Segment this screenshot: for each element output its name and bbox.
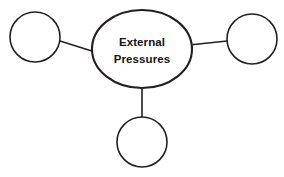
connector-left bbox=[60, 41, 95, 52]
connector-right bbox=[189, 41, 227, 45]
external-pressures-label-line1: External bbox=[119, 36, 165, 48]
satellite-bottom[interactable] bbox=[117, 117, 167, 167]
satellite-right[interactable] bbox=[227, 14, 277, 64]
diagram-canvas: External Pressures bbox=[0, 0, 284, 177]
satellite-left[interactable] bbox=[10, 12, 60, 62]
external-pressures-label-line2: Pressures bbox=[114, 53, 171, 65]
hub-and-spoke-diagram: External Pressures bbox=[0, 0, 284, 177]
external-pressures-ellipse[interactable] bbox=[92, 10, 192, 88]
